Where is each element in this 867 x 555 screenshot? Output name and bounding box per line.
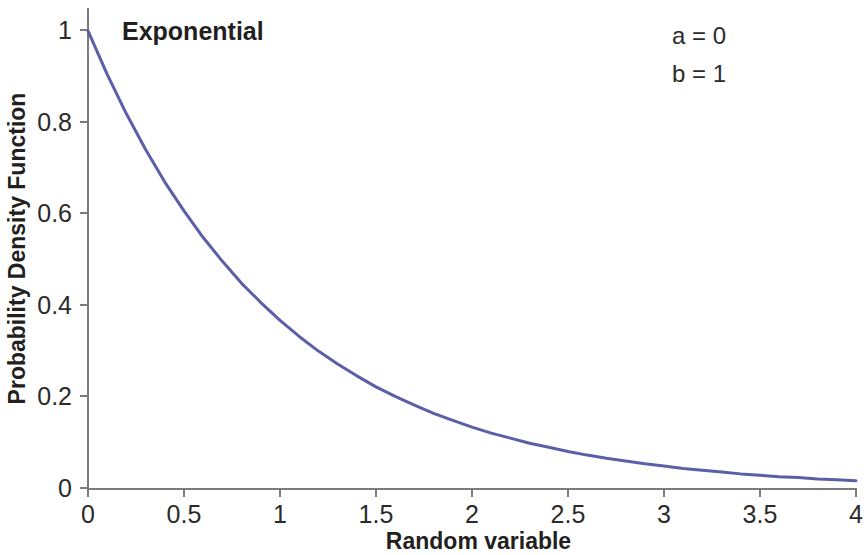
annotation-location-parameter: a = 0 [672,22,726,50]
x-tick-label: 1.5 [359,500,394,529]
exponential-pdf-chart: 00.511.522.533.54 00.20.40.60.81 Exponen… [0,0,867,555]
x-tick-mark [663,489,665,497]
y-tick-mark [80,487,88,489]
x-tick-label: 3 [657,500,671,529]
y-tick-mark [80,304,88,306]
x-tick-label: 4 [849,500,863,529]
annotation-scale-parameter: b = 1 [672,60,726,88]
y-tick-mark [80,121,88,123]
x-tick-mark [567,489,569,497]
plot-area [88,8,856,489]
x-tick-label: 0 [81,500,95,529]
x-tick-mark [375,489,377,497]
series-exponential-pdf [88,8,856,489]
x-tick-mark [279,489,281,497]
chart-title: Exponential [122,17,264,46]
x-tick-mark [759,489,761,497]
y-tick-mark [80,212,88,214]
x-tick-label: 2 [465,500,479,529]
x-tick-mark [471,489,473,497]
x-tick-mark [855,489,857,497]
y-tick-mark [80,395,88,397]
x-axis-title: Random variable [0,528,867,555]
x-tick-mark [183,489,185,497]
x-tick-mark [87,489,89,497]
x-tick-label: 1 [273,500,287,529]
y-axis-title: Probability Density Function [0,8,34,489]
exponential-pdf-curve [88,31,856,481]
x-axis-title-label: Random variable [386,528,571,554]
x-tick-label: 3.5 [743,500,778,529]
x-tick-label: 0.5 [167,500,202,529]
x-tick-label: 2.5 [551,500,586,529]
